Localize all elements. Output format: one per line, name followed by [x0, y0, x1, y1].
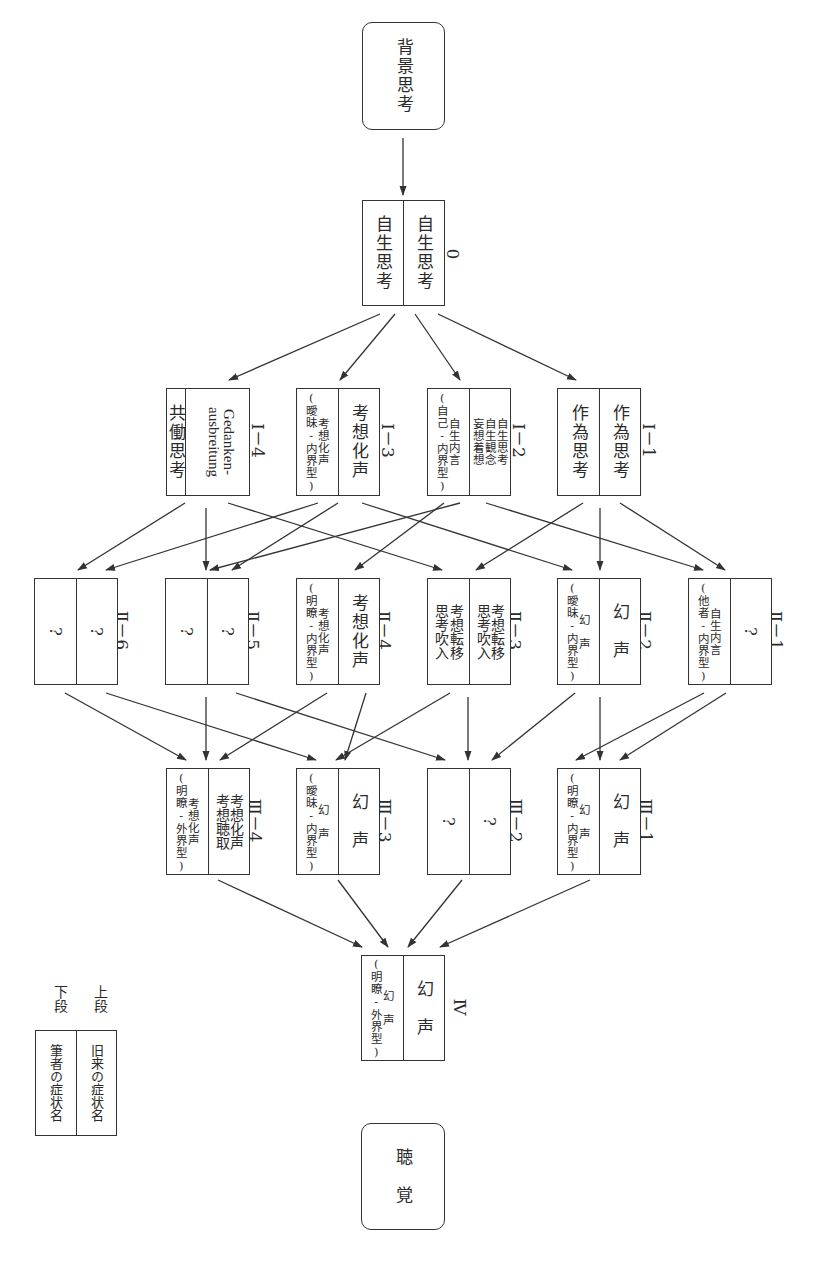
node-III3-lower: 幻 声 (曖昧-内界型)	[305, 771, 329, 873]
node-I4-lower: 共働思考	[167, 404, 185, 480]
node-I4: 共働思考 Gedanken- ausbreitung	[166, 388, 250, 496]
node-I2: 自生内言 (自己-内界型) 自生思考 自生観念 妄想着想	[427, 388, 511, 496]
node-II6: ? ?	[34, 578, 118, 685]
node-II3-lower: 考想転移 思考吹入	[434, 604, 463, 660]
node-II3-upper: 考想転移 思考吹入	[475, 604, 504, 660]
node-III4-lower: 考想化声 (明瞭-外界型)	[175, 771, 199, 873]
node-II5-lower: ?	[177, 627, 196, 636]
node-0-upper: 自生思考	[415, 215, 433, 291]
legend-box: 筆者の症状名 旧来の症状名	[35, 1030, 117, 1136]
bottom-node-label: 聴 覚	[394, 1148, 412, 1205]
node-I1-id: Ⅰ－1	[638, 423, 663, 458]
node-I1-lower: 作為思考	[569, 404, 587, 480]
node-I2-lower: 自生内言 (自己-内界型)	[436, 391, 460, 493]
node-II2-lower: 幻 声 (曖昧-内界型)	[566, 581, 590, 683]
node-II4: 考想化声 (明瞭-内界型) 考想化声	[296, 578, 380, 685]
node-IV-id: Ⅳ	[450, 999, 470, 1016]
legend-upper-value: 旧来の症状名	[89, 1044, 103, 1122]
node-I3: 考想化声 (曖昧-内界型) 考想化声	[296, 388, 380, 496]
node-III1-upper: 幻 声	[611, 793, 629, 850]
node-III4-upper: 考想化声 考想聴取	[214, 794, 243, 850]
legend-lower-key: 下段	[50, 985, 70, 1013]
node-I3-upper: 考想化声	[350, 404, 368, 480]
node-II1-upper: ?	[741, 627, 760, 636]
bottom-node-hearing: 聴 覚	[361, 1123, 445, 1230]
node-II6-upper: ?	[87, 627, 106, 636]
node-II2-upper: 幻 声	[611, 603, 629, 660]
node-II1-lower: 自生内言 (他者-内界型)	[697, 581, 721, 683]
node-II1: 自生内言 (他者-内界型) ?	[688, 578, 772, 685]
node-II2: 幻 声 (曖昧-内界型) 幻 声	[557, 578, 641, 685]
node-I2-id: Ⅰ－2	[508, 423, 533, 458]
node-II6-lower: ?	[46, 627, 65, 636]
node-II3: 考想転移 思考吹入 考想転移 思考吹入	[427, 578, 511, 685]
node-II5-upper: ?	[218, 627, 237, 636]
node-0-id: 0	[443, 249, 463, 260]
node-I1: 作為思考 作為思考	[557, 388, 641, 496]
node-0: 自生思考 自生思考	[362, 200, 445, 306]
node-II5: ? ?	[165, 578, 249, 685]
node-IV-lower: 幻 声 (明瞭-外界型)	[370, 957, 394, 1059]
node-III2-lower: ?	[439, 817, 458, 826]
node-I3-lower: 考想化声 (曖昧-内界型)	[305, 391, 329, 493]
legend-lower-value: 筆者の症状名	[49, 1044, 63, 1122]
node-II4-upper: 考想化声	[350, 594, 368, 670]
top-node-label: 背景思考	[395, 38, 413, 114]
node-IV-upper: 幻 声	[415, 980, 433, 1037]
node-III2-upper: ?	[480, 817, 499, 826]
node-III3: 幻 声 (曖昧-内界型) 幻 声	[296, 768, 380, 875]
node-0-lower: 自生思考	[374, 215, 392, 291]
node-III4: 考想化声 (明瞭-外界型) 考想化声 考想聴取	[166, 768, 250, 875]
node-I2-upper: 自生思考 自生観念 妄想着想	[472, 418, 508, 466]
top-node-background-thinking: 背景思考	[362, 22, 445, 130]
node-I1-upper: 作為思考	[611, 404, 629, 480]
node-II4-lower: 考想化声 (明瞭-内界型)	[305, 581, 329, 683]
node-III1: 幻 声 (明瞭-内界型) 幻 声	[557, 768, 641, 875]
node-I3-id: Ⅰ－3	[377, 423, 402, 458]
legend-upper-key: 上段	[90, 985, 110, 1013]
node-IV: 幻 声 (明瞭-外界型) 幻 声	[361, 955, 445, 1061]
node-I4-upper: Gedanken- ausbreitung	[206, 407, 236, 477]
node-III2: ? ?	[427, 768, 511, 875]
node-III3-upper: 幻 声	[350, 793, 368, 850]
node-III1-lower: 幻 声 (明瞭-内界型)	[566, 771, 590, 873]
